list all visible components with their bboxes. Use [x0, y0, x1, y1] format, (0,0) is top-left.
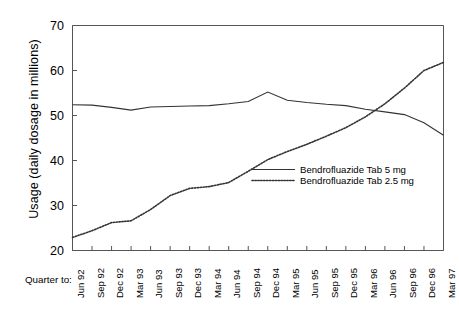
- plot-frame: [73, 26, 444, 251]
- chart-figure: Usage (daily dosage in millions) 2030405…: [0, 0, 459, 316]
- x-tick-label: Dec 95: [349, 268, 359, 298]
- y-axis-title: Usage (daily dosage in millions): [27, 9, 41, 249]
- x-tick-label: Dec 94: [271, 268, 281, 298]
- x-tick-label: Sep 95: [330, 268, 340, 298]
- x-tick-label: Dec 93: [193, 268, 203, 298]
- x-tick-label: Sep 96: [408, 268, 418, 298]
- x-tick-label: Mar 95: [291, 268, 301, 298]
- x-tick-label: Jun 94: [232, 269, 242, 298]
- x-tick-label: Sep 94: [252, 268, 262, 298]
- x-tick-label: Dec 92: [115, 268, 125, 298]
- legend-label: Bendrofluazide Tab 5 mg: [300, 165, 406, 175]
- x-tick-label: Sep 93: [174, 268, 184, 298]
- x-tick-label: Jun 95: [310, 269, 320, 298]
- y-tick-label: 50: [38, 110, 64, 123]
- data-series-group: [73, 62, 444, 237]
- x-tick-label: Mar 93: [135, 268, 145, 298]
- y-tick-label: 40: [38, 155, 64, 168]
- y-tick-label: 60: [38, 65, 64, 78]
- x-axis-ticks: [73, 246, 444, 251]
- data-line: [73, 62, 444, 237]
- quarter-to-label: Quarter to:: [25, 274, 72, 285]
- legend-label: Bendrofluazide Tab 2.5 mg: [300, 176, 414, 186]
- x-tick-label: Jun 96: [388, 269, 398, 298]
- y-tick-label: 30: [38, 200, 64, 213]
- x-tick-label: Mar 94: [213, 268, 223, 298]
- data-line: [73, 92, 444, 135]
- x-tick-label: Mar 97: [447, 268, 457, 298]
- x-tick-label: Jun 92: [76, 269, 86, 298]
- x-tick-label: Dec 96: [427, 268, 437, 298]
- legend-sample-lines: [252, 170, 295, 181]
- x-tick-label: Mar 96: [369, 268, 379, 298]
- y-axis-ticks: [73, 26, 78, 251]
- x-tick-label: Jun 93: [154, 269, 164, 298]
- y-tick-label: 20: [38, 245, 64, 258]
- x-tick-label: Sep 92: [96, 268, 106, 298]
- y-tick-label: 70: [38, 20, 64, 33]
